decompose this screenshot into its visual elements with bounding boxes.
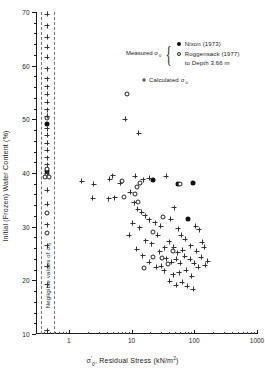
legend-item-depth-note: to Depth 3.66 m xyxy=(176,59,240,68)
data-point-calculated xyxy=(45,188,50,193)
x-tick xyxy=(69,330,70,334)
x-tick xyxy=(132,330,133,334)
x-tick-minor xyxy=(232,332,233,334)
data-point-calculated xyxy=(175,250,180,255)
data-point-roggensack xyxy=(45,230,50,235)
y-tick-minor xyxy=(34,248,36,249)
x-tick-minor xyxy=(99,332,100,334)
x-axis-title: σ'0, Residual Stress (kN/m2) xyxy=(0,356,265,367)
data-point-calculated xyxy=(45,114,50,119)
x-axis-title-tail: ) xyxy=(176,358,179,365)
y-tick xyxy=(32,66,36,67)
data-point-calculated xyxy=(147,217,152,222)
legend: Measured σ'0 { Nixon (1973) Roggensack (… xyxy=(126,40,240,87)
y-tick-minor xyxy=(34,87,36,88)
data-point-calculated xyxy=(149,241,154,246)
y-tick xyxy=(32,173,36,174)
data-point-calculated xyxy=(136,131,141,136)
data-point-calculated xyxy=(167,239,172,244)
negligible-text: Negligible values of xyxy=(45,250,51,308)
data-point-nixon xyxy=(190,180,195,185)
data-point-calculated xyxy=(45,282,50,287)
x-tick xyxy=(257,330,258,334)
open-circle-icon xyxy=(176,50,183,58)
y-tick-minor xyxy=(34,291,36,292)
data-point-roggensack xyxy=(125,91,130,96)
x-tick-label: 10 xyxy=(128,337,135,344)
legend-sigma-sub: 0 xyxy=(159,53,161,58)
y-tick-label: 20 xyxy=(22,277,30,284)
y-axis-title: Initial (Frozen) Water Content (%) xyxy=(2,130,9,241)
x-tick-minor xyxy=(55,332,56,334)
data-point-calculated xyxy=(130,221,135,226)
data-point-calculated xyxy=(194,249,199,254)
y-tick-minor xyxy=(34,270,36,271)
data-point-calculated xyxy=(137,225,142,230)
chart-figure: Initial (Frozen) Water Content (%) Negli… xyxy=(0,0,265,372)
data-point-calculated xyxy=(168,217,173,222)
data-point-calculated xyxy=(180,280,185,285)
data-point-calculated xyxy=(127,233,132,238)
data-point-calculated xyxy=(197,227,202,232)
data-point-roggensack xyxy=(178,181,183,186)
legend-entries: Nixon (1973) Roggensack (1977) to Depth … xyxy=(176,40,240,68)
y-tick-minor xyxy=(34,205,36,206)
y-tick-minor xyxy=(34,237,36,238)
legend-item-calculated[interactable]: Calculated σ'0 xyxy=(126,74,240,88)
data-point-roggensack xyxy=(133,192,138,197)
data-point-calculated xyxy=(128,190,133,195)
legend-item-nixon[interactable]: Nixon (1973) xyxy=(176,40,240,49)
y-tick-minor xyxy=(34,130,36,131)
y-tick xyxy=(32,280,36,281)
data-point-calculated xyxy=(178,261,183,266)
data-point-calculated xyxy=(112,195,117,200)
legend-measured-row: Measured σ'0 { Nixon (1973) Roggensack (… xyxy=(126,40,240,68)
data-point-calculated xyxy=(45,133,50,138)
data-point-calculated xyxy=(45,171,50,176)
data-point-calculated xyxy=(45,45,50,50)
data-point-roggensack xyxy=(134,185,139,190)
filled-circle-icon xyxy=(176,40,183,48)
data-point-calculated xyxy=(45,328,50,333)
x-tick-minor xyxy=(88,332,89,334)
data-point-calculated xyxy=(45,264,50,269)
x-axis-title-text: , Residual Stress (kN/m xyxy=(95,358,173,365)
data-point-calculated xyxy=(164,174,169,179)
data-point-calculated xyxy=(123,117,128,122)
x-tick-minor xyxy=(107,332,108,334)
y-tick-label: 40 xyxy=(22,170,30,177)
x-tick-minor xyxy=(59,332,60,334)
data-point-calculated xyxy=(45,35,50,40)
data-point-calculated xyxy=(184,268,189,273)
legend-item-roggensack[interactable]: Roggensack (1977) xyxy=(176,50,240,59)
data-point-calculated xyxy=(180,248,185,253)
y-tick-minor xyxy=(34,44,36,45)
data-point-calculated xyxy=(191,287,196,292)
y-tick-label: 60 xyxy=(22,62,30,69)
data-point-calculated xyxy=(143,238,148,243)
x-tick-minor xyxy=(180,332,181,334)
data-point-calculated xyxy=(141,177,146,182)
y-tick-minor xyxy=(34,323,36,324)
data-point-calculated xyxy=(162,245,167,250)
x-tick-minor xyxy=(247,332,248,334)
x-tick-minor xyxy=(213,332,214,334)
data-point-calculated xyxy=(45,202,50,207)
data-point-calculated xyxy=(45,162,50,167)
x-tick-minor xyxy=(251,332,252,334)
y-tick-label: 10 xyxy=(22,331,30,338)
legend-measured-label: Measured σ'0 xyxy=(126,47,163,61)
data-point-calculated xyxy=(45,243,50,248)
data-point-calculated xyxy=(202,245,207,250)
data-point-calculated xyxy=(155,233,160,238)
data-point-calculated xyxy=(45,76,50,81)
legend-item-calculated-label: Calculated σ'0 xyxy=(149,74,188,88)
data-point-calculated xyxy=(167,279,172,284)
y-tick-minor xyxy=(34,216,36,217)
x-tick-minor xyxy=(125,332,126,334)
y-tick-label: 30 xyxy=(22,223,30,230)
y-tick-minor xyxy=(34,184,36,185)
y-tick-minor xyxy=(34,33,36,34)
data-point-calculated xyxy=(157,249,162,254)
y-tick xyxy=(32,119,36,120)
